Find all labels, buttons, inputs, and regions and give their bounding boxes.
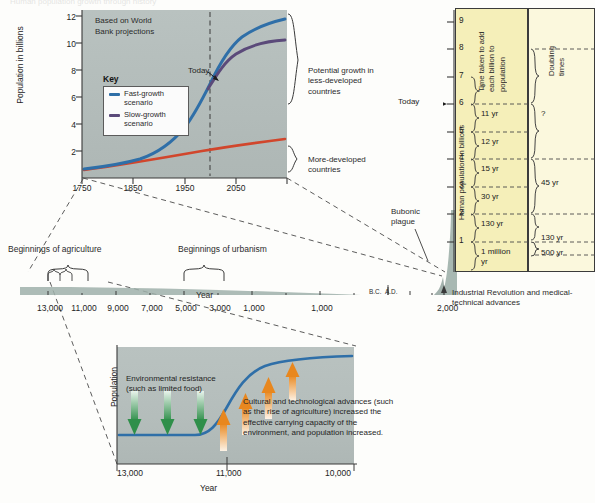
table-scale-and-braces	[443, 8, 595, 272]
table-scale-7: 7	[459, 71, 464, 80]
bottom-chart-xtick-13000: 13,000	[117, 468, 143, 478]
table-doubling-3: 130 yr	[541, 233, 563, 242]
bottom-chart-xtick-11000: 11,000	[216, 468, 241, 478]
annotation-environmental-resistance: Environmental resistance (such as limite…	[126, 374, 234, 394]
table-add-time-3b: 30 yr	[481, 192, 499, 201]
table-doubling-2: 45 yr	[541, 178, 559, 187]
table-doubling-1: ?	[541, 109, 545, 118]
table-add-time-4b: 15 yr	[481, 164, 499, 173]
bracket-label-agriculture: Beginnings of agriculture	[8, 244, 102, 254]
timeline-xtick-3000: 3,000	[201, 303, 239, 313]
timeline-xtick-11000: 11,000	[65, 303, 103, 313]
annotation-industrial-revolution: Industrial Revolution and medical-techni…	[452, 288, 592, 309]
bottom-chart-x-axis-title: Year	[200, 483, 217, 493]
timeline-xtick-7000: 7,000	[133, 303, 171, 313]
timeline-xtick-5000: 5,000	[167, 303, 205, 313]
timeline-xtick-13000: 13,000	[31, 303, 69, 313]
table-scale-2: 2	[459, 208, 464, 217]
table-doubling-4: 500 yr	[541, 248, 563, 257]
table-scale-9: 9	[459, 16, 464, 25]
timeline-xtick-1000-bc: 1,000	[235, 303, 273, 313]
bottom-chart-y-axis-title: Population	[109, 352, 119, 422]
table-scale-8: 8	[459, 43, 464, 52]
table-add-time-5b: 12 yr	[481, 137, 499, 146]
era-label-bc: B.C.	[369, 288, 381, 295]
table-scale-6: 6	[459, 98, 464, 107]
bottom-chart-xtick-10000: 10,000	[325, 468, 351, 478]
timeline-xtick-1000-ad: 1,000	[303, 303, 341, 313]
table-add-time-6b: 11 yr	[481, 109, 498, 118]
timeline-xtick-9000: 9,000	[99, 303, 137, 313]
table-scale-4: 4	[459, 153, 464, 162]
table-add-time-7b: ?	[481, 82, 485, 91]
table-add-time-2b: 130 yr	[481, 219, 503, 228]
era-label-ad: A.D.	[385, 288, 397, 295]
today-label-table: Today	[398, 97, 419, 106]
annotation-cultural-advances: Cultural and technological advances (suc…	[243, 397, 403, 439]
table-scale-5: 5	[459, 126, 464, 135]
table-add-time-1b: 1 million yr	[481, 247, 517, 266]
annotation-bubonic-plague: Bubonic plague	[391, 207, 433, 227]
table-scale-1: 1	[459, 236, 464, 245]
timeline-x-axis-title: Year	[196, 290, 213, 300]
population-milestones-table: Time taken to add each billion to popula…	[443, 8, 595, 272]
table-scale-3: 3	[459, 181, 464, 190]
bracket-label-urbanism: Beginnings of urbanism	[178, 244, 267, 254]
